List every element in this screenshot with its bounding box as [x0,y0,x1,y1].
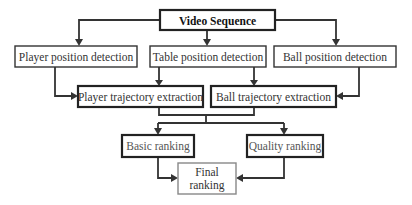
node-label-ball-trajectory-extraction: Ball trajectory extraction [216,91,331,104]
node-label-player-position-detection: Player position detection [19,51,134,64]
node-label-ball-position-detection: Ball position detection [283,51,387,64]
node-label-final-ranking-line2: ranking [189,179,224,192]
node-player-position-detection: Player position detection [15,46,137,67]
node-quality-ranking: Quality ranking [247,135,323,157]
node-video-sequence: Video Sequence [160,10,275,30]
node-label-quality-ranking: Quality ranking [249,140,322,153]
arrow-video-to-player-detection [75,39,83,46]
edge-quality-to-final-ranking [242,157,284,178]
arrow-video-to-ball-detection [332,39,340,46]
node-basic-ranking: Basic ranking [122,135,194,157]
node-label-final-ranking-line1: Final [195,166,219,178]
node-ball-trajectory-extraction: Ball trajectory extraction [211,86,336,107]
edge-ball-detection-to-ball-trajectory [342,67,359,96]
node-label-table-position-detection: Table position detection [153,51,264,64]
flowchart-diagram: Video Sequence Player position detection… [0,0,412,205]
edge-player-detection-to-player-trajectory [55,67,72,96]
node-label-player-trajectory-extraction: Player trajectory extraction [78,91,203,104]
edge-video-to-player-detection [79,20,160,40]
node-table-position-detection: Table position detection [150,46,266,67]
node-label-basic-ranking: Basic ranking [126,140,190,153]
node-player-trajectory-extraction: Player trajectory extraction [78,86,203,107]
arrow-quality-to-final-ranking [236,174,243,182]
arrow-basic-to-final-ranking [171,174,178,182]
node-final-ranking: Final ranking [178,163,236,194]
node-label-video-sequence: Video Sequence [179,15,256,28]
edge-basic-to-final-ranking [158,157,172,178]
edge-player-trajectory-merge [159,107,254,115]
node-ball-position-detection: Ball position detection [274,46,396,67]
arrow-video-to-table-detection [203,39,211,46]
edge-video-to-ball-detection [275,20,336,40]
